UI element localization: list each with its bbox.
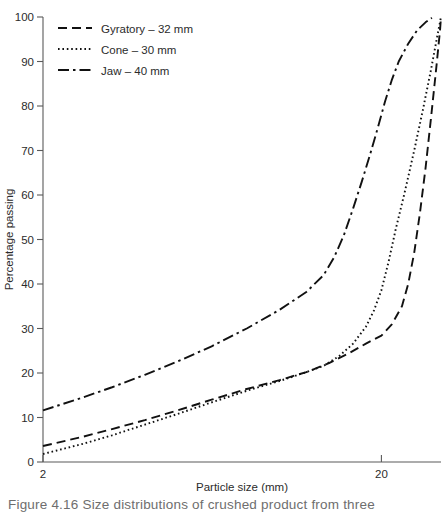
- x-tick-label: 2: [40, 468, 46, 480]
- x-axis-ticks: 220: [40, 455, 388, 480]
- y-axis-title: Percentage passing: [3, 189, 15, 291]
- y-tick-label: 10: [21, 412, 34, 424]
- y-tick-label: 20: [21, 367, 34, 379]
- legend-label: Gyratory – 32 mm: [101, 23, 193, 35]
- figure-caption: Figure 4.16 Size distributions of crushe…: [0, 497, 445, 512]
- y-tick-label: 40: [21, 278, 34, 290]
- x-tick-label: 20: [375, 468, 388, 480]
- series-line-dotted: [43, 17, 441, 454]
- y-tick-label: 50: [21, 234, 34, 246]
- chart-series-group: [43, 17, 441, 454]
- series-line-dashed: [43, 17, 441, 446]
- y-axis-ticks: 0102030405060708090100: [15, 11, 43, 468]
- y-tick-label: 30: [21, 323, 34, 335]
- y-tick-label: 0: [28, 456, 34, 468]
- chart-legend: Gyratory – 32 mmCone – 30 mmJaw – 40 mm: [58, 23, 193, 77]
- legend-label: Cone – 30 mm: [101, 44, 176, 56]
- y-tick-label: 100: [15, 11, 34, 23]
- chart-axes: [43, 17, 441, 462]
- series-line-dash-dot: [43, 18, 432, 410]
- legend-label: Jaw – 40 mm: [101, 65, 169, 77]
- y-tick-label: 90: [21, 56, 34, 68]
- y-tick-label: 80: [21, 100, 34, 112]
- x-axis-title: Particle size (mm): [196, 481, 288, 493]
- y-tick-label: 60: [21, 189, 34, 201]
- y-tick-label: 70: [21, 145, 34, 157]
